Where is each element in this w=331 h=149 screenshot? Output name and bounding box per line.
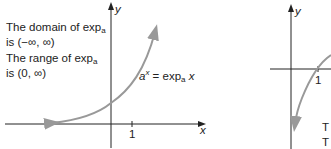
right-text-line1: T (322, 121, 329, 134)
left-x-axis-label: x (200, 124, 206, 137)
domain-text: The domain of expa (6, 21, 106, 37)
right-y-axis-label: y (295, 5, 301, 18)
right-tick-label: 1 (315, 74, 321, 87)
domain-interval: is (−∞, ∞) (6, 36, 55, 49)
logarithm-curve (295, 55, 331, 124)
right-text-line2: T (322, 136, 329, 149)
range-text: The range of expa (6, 52, 97, 68)
left-tick-label: 1 (129, 128, 135, 141)
range-interval: is (0, ∞) (6, 67, 46, 80)
curve-equation-label: ax = expa x (139, 66, 194, 86)
left-y-axis-label: y (115, 3, 121, 16)
